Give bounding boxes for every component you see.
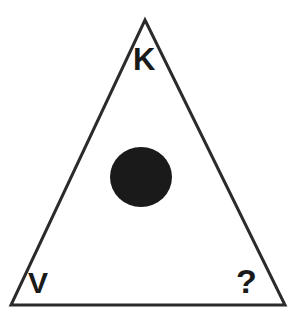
figure-canvas: K V ? [0,0,295,319]
triangle-figure [0,0,295,319]
center-disc [110,147,172,207]
